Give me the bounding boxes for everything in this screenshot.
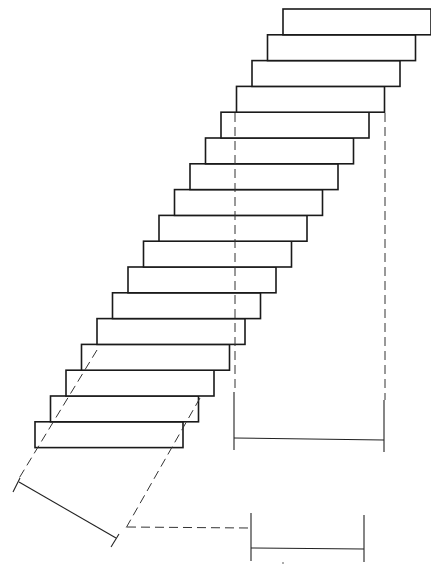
bottom-dimension-line bbox=[251, 548, 364, 549]
stair-treads bbox=[35, 9, 431, 448]
stair-tread bbox=[175, 190, 323, 216]
stair-tread bbox=[252, 61, 400, 87]
stair-tread bbox=[35, 422, 183, 448]
stair-tread bbox=[268, 35, 416, 61]
stair-tread bbox=[97, 319, 245, 345]
dot-mark bbox=[282, 562, 284, 564]
stair-tread bbox=[66, 370, 214, 396]
stair-tread bbox=[144, 241, 292, 267]
stair-tread bbox=[221, 112, 369, 138]
inclined-dimension-line bbox=[19, 482, 116, 538]
stair-tread bbox=[190, 164, 338, 190]
horizontal-dimension-line bbox=[234, 438, 384, 440]
stair-tread bbox=[113, 293, 261, 319]
leader-dashed-line bbox=[127, 527, 248, 528]
stair-tread bbox=[237, 86, 385, 112]
staircase-diagram bbox=[0, 0, 431, 574]
stair-tread bbox=[82, 344, 230, 370]
stair-tread bbox=[51, 396, 199, 422]
bottom-dimension bbox=[251, 513, 364, 564]
inclined-dimension-tick-left bbox=[13, 478, 20, 492]
stair-tread bbox=[128, 267, 276, 293]
stair-tread bbox=[283, 9, 431, 35]
stair-tread bbox=[206, 138, 354, 164]
stair-tread bbox=[159, 215, 307, 241]
